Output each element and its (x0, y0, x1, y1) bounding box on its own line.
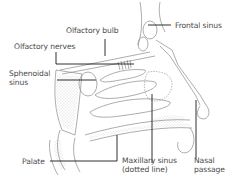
sphenoidal-sinus-line1: Sphenoidal (9, 69, 50, 78)
sphenoidal-sinus-line2: sinus (9, 78, 50, 87)
palate-label: Palate (22, 157, 45, 166)
nasal-passage-line2: passage (194, 165, 225, 174)
olfactory-bulb-label: Olfactory bulb (66, 26, 118, 35)
maxillary-sinus-label: Maxillary sinus (dotted line) (122, 156, 177, 174)
nasal-passage-label: Nasal passage (194, 156, 225, 174)
maxillary-sinus-line1: Maxillary sinus (122, 156, 177, 165)
sphenoidal-sinus-label: Sphenoidal sinus (9, 69, 50, 87)
maxillary-sinus-outline (144, 72, 172, 102)
olfactory-nerves-label: Olfactory nerves (14, 42, 75, 51)
nasal-passage-line1: Nasal (194, 156, 225, 165)
maxillary-sinus-line2: (dotted line) (122, 165, 177, 174)
frontal-sinus-label: Frontal sinus (175, 21, 222, 30)
